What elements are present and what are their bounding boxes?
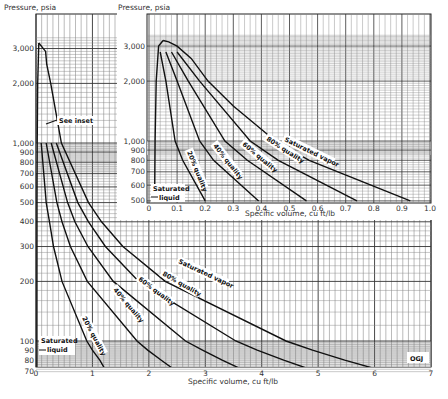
main-y-tick: 800 [20, 158, 35, 167]
inset-y-tick: 900 [131, 146, 146, 155]
source-label: OGJ [410, 355, 423, 363]
inset-y-tick: 500 [131, 196, 146, 205]
inset-x-tick: 0.8 [368, 204, 380, 213]
main-y-tick: 70 [24, 367, 34, 376]
inset-grid [147, 14, 431, 203]
main-y-axis-label: Pressure, psia [4, 3, 56, 12]
main-x-tick: 1 [90, 369, 95, 378]
inset-x-tick: 1.0 [424, 204, 436, 213]
inset-y-axis-label: Pressure, psia [118, 3, 170, 12]
main-x-axis-label: Specific volume, cu ft/lb [188, 377, 278, 386]
inset-y-tick: 800 [131, 156, 146, 165]
inset-y-tick: 2,000 [124, 77, 146, 86]
inset-sat-liquid-label-2: liquid [159, 194, 180, 202]
inset-x-tick: 0.3 [227, 204, 239, 213]
main-y-tick: 700 [20, 169, 35, 178]
inset-x-tick: 0.9 [396, 204, 408, 213]
main-x-tick: 5 [316, 369, 321, 378]
main-sat-liquid-label-1: Saturated [41, 337, 78, 345]
main-y-tick: 300 [20, 242, 35, 251]
main-sat-liquid-label-2: liquid [47, 346, 68, 354]
inset-y-tick: 600 [131, 181, 146, 190]
inset-x-tick: 0.7 [340, 204, 352, 213]
steam-pv-chart: 012345673,0002,0001,00090080070060050040… [0, 0, 448, 399]
main-x-tick: 6 [372, 369, 377, 378]
inset-x-axis-label: Specific volume, cu ft/lb [245, 209, 335, 218]
main-y-tick: 100 [20, 337, 35, 346]
main-y-tick: 1,000 [13, 139, 35, 148]
main-y-tick: 80 [24, 356, 34, 365]
main-y-tick: 90 [24, 346, 34, 355]
chart-canvas: 012345673,0002,0001,00090080070060050040… [0, 0, 448, 399]
inset-y-tick: 1,000 [124, 137, 146, 146]
main-x-tick: 0 [34, 369, 39, 378]
main-y-tick: 900 [20, 148, 35, 157]
main-y-tick: 400 [20, 217, 35, 226]
inset-x-tick: 0.2 [199, 204, 211, 213]
main-y-tick: 2,000 [13, 79, 35, 88]
main-y-tick: 500 [20, 198, 35, 207]
inset-x-tick: 0 [147, 204, 152, 213]
main-y-tick: 600 [20, 182, 35, 191]
main-y-tick: 3,000 [13, 44, 35, 53]
inset-y-tick: 700 [131, 167, 146, 176]
main-y-tick: 200 [20, 277, 35, 286]
inset-x-tick: 0.1 [171, 204, 183, 213]
inset-y-tick: 3,000 [124, 42, 146, 51]
inset-sat-liquid-label-1: Saturated [153, 185, 190, 193]
main-x-tick: 7 [429, 369, 434, 378]
main-x-tick: 2 [146, 369, 151, 378]
see-inset-annotation: See inset [59, 117, 93, 125]
